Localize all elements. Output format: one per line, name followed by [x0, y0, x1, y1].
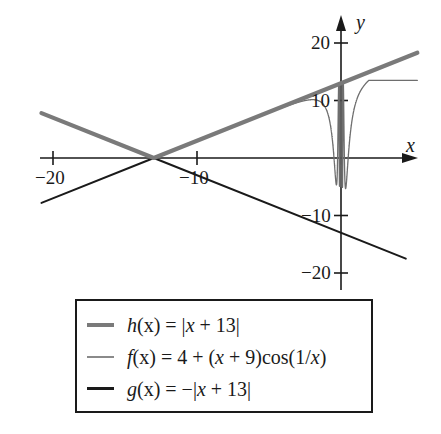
- y-axis-arrow-icon: [336, 15, 346, 31]
- curve-f: [276, 80, 417, 188]
- y-tick-label: 10: [311, 91, 330, 110]
- curve-h: [41, 53, 417, 158]
- legend-label-g: g(x) = −|x + 13|: [127, 379, 251, 399]
- legend-label-h: h(x) = |x + 13|: [127, 315, 240, 335]
- curves: [41, 53, 417, 259]
- legend-swatch-h: [87, 323, 114, 327]
- curve-g: [41, 158, 405, 259]
- chart-plot-area: [0, 0, 441, 300]
- y-tick-label: 20: [311, 33, 330, 52]
- legend: h(x) = |x + 13| f(x) = 4 + (x + 9)cos(1/…: [75, 299, 373, 413]
- y-axis-label: y: [356, 12, 365, 32]
- legend-swatch-g: [87, 387, 114, 390]
- y-tick-label: −10: [301, 206, 331, 225]
- y-tick-label: −20: [301, 263, 331, 282]
- legend-swatch-f: [87, 356, 114, 358]
- legend-label-f: f(x) = 4 + (x + 9)cos(1/x): [127, 347, 326, 367]
- x-tick-label: −10: [179, 168, 209, 187]
- x-axis-label: x: [406, 135, 415, 155]
- axes: [40, 15, 418, 290]
- x-tick-label: −20: [35, 168, 65, 187]
